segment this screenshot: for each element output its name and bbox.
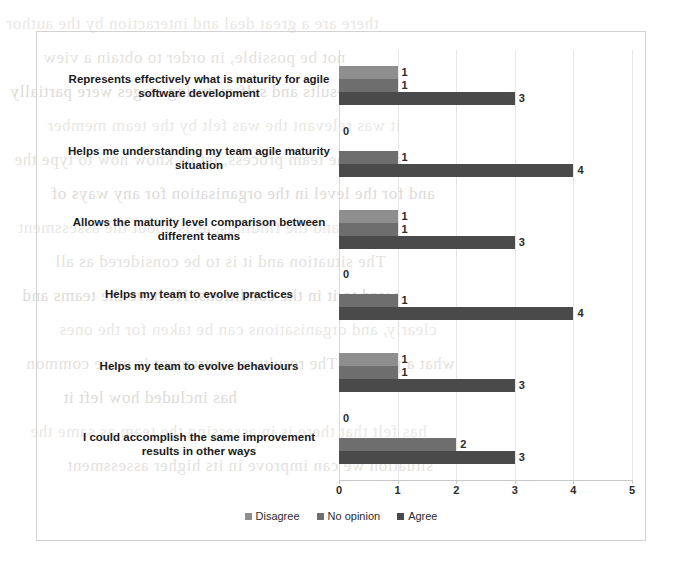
- legend-swatch-icon: [397, 513, 404, 520]
- chart-bar: [339, 353, 398, 366]
- chart-category-group: Allows the maturity level comparison bet…: [339, 210, 632, 249]
- bar-value-label: 4: [577, 164, 583, 177]
- bar-value-label: 2: [460, 438, 466, 451]
- chart-bar: [339, 66, 398, 79]
- bar-value-label: 3: [519, 236, 525, 249]
- category-axis-label: I could accomplish the same improvement …: [65, 430, 333, 458]
- chart-gridline: [398, 50, 399, 480]
- bar-value-label: 1: [402, 79, 408, 92]
- chart-bar: [339, 438, 456, 451]
- x-axis-tick-label: 0: [336, 484, 342, 496]
- bar-value-label: 4: [577, 307, 583, 320]
- chart-category-group: Represents effectively what is maturity …: [339, 66, 632, 105]
- chart-bar: [339, 164, 573, 177]
- bar-value-label: 1: [402, 223, 408, 236]
- bar-value-label: 0: [343, 268, 349, 281]
- chart-bar: [339, 307, 573, 320]
- chart-bar: [339, 236, 515, 249]
- chart-bar: [339, 451, 515, 464]
- legend-item-agree[interactable]: Agree: [397, 510, 437, 522]
- category-axis-label: Helps me understanding my team agile mat…: [65, 144, 333, 172]
- chart-gridline: [632, 50, 633, 480]
- bar-value-label: 1: [402, 210, 408, 223]
- category-axis-label: Helps my team to evolve practices: [65, 287, 333, 301]
- legend-swatch-icon: [317, 513, 324, 520]
- x-axis-tick-label: 5: [629, 484, 635, 496]
- bar-value-label: 3: [519, 92, 525, 105]
- chart-bar: [339, 210, 398, 223]
- bar-value-label: 1: [402, 353, 408, 366]
- bar-value-label: 1: [402, 151, 408, 164]
- x-axis-line: [339, 480, 633, 481]
- chart-bar: [339, 92, 515, 105]
- bar-value-label: 3: [519, 379, 525, 392]
- x-axis-tick-label: 1: [395, 484, 401, 496]
- chart-bar: [339, 223, 398, 236]
- x-axis-tick-label: 2: [453, 484, 459, 496]
- category-axis-label: Allows the maturity level comparison bet…: [65, 215, 333, 243]
- legend-item-disagree[interactable]: Disagree: [245, 510, 300, 522]
- chart-bar: [339, 79, 398, 92]
- chart-gridline: [515, 50, 516, 480]
- bar-value-label: 3: [519, 451, 525, 464]
- chart-bar: [339, 366, 398, 379]
- bar-value-label: 1: [402, 366, 408, 379]
- legend-label: Disagree: [256, 510, 300, 522]
- legend-label: No opinion: [328, 510, 381, 522]
- chart-category-group: Helps my team to evolve behaviours113: [339, 353, 632, 392]
- legend-label: Agree: [408, 510, 437, 522]
- chart-bar: [339, 379, 515, 392]
- chart-gridline: [339, 50, 340, 480]
- x-axis-tick-label: 4: [570, 484, 576, 496]
- chart-gridline: [456, 50, 457, 480]
- chart-legend: DisagreeNo opinionAgree: [37, 510, 645, 522]
- legend-item-no-opinion[interactable]: No opinion: [317, 510, 381, 522]
- bar-value-label: 1: [402, 294, 408, 307]
- legend-swatch-icon: [245, 513, 252, 520]
- chart-frame: Represents effectively what is maturity …: [36, 31, 646, 541]
- x-axis-tick-label: 3: [512, 484, 518, 496]
- bar-value-label: 0: [343, 125, 349, 138]
- plot-area: Represents effectively what is maturity …: [339, 50, 632, 480]
- bar-value-label: 0: [343, 412, 349, 425]
- bar-value-label: 1: [402, 66, 408, 79]
- chart-category-group: I could accomplish the same improvement …: [339, 425, 632, 464]
- category-axis-label: Represents effectively what is maturity …: [65, 72, 333, 100]
- category-axis-label: Helps my team to evolve behaviours: [65, 359, 333, 373]
- chart-category-group: Helps me understanding my team agile mat…: [339, 138, 632, 177]
- chart-gridline: [573, 50, 574, 480]
- chart-bar: [339, 151, 398, 164]
- chart-bar: [339, 294, 398, 307]
- chart-category-group: Helps my team to evolve practices014: [339, 281, 632, 320]
